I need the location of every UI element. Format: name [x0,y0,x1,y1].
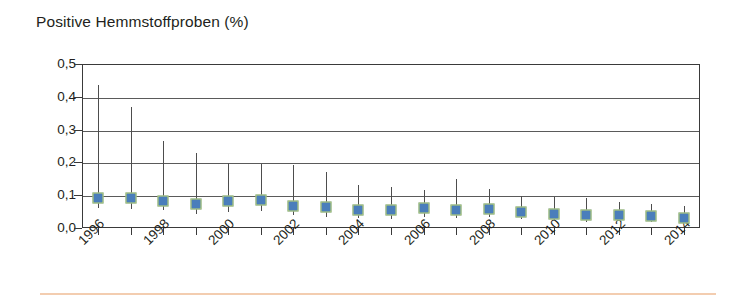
chart-figure: Positive Hemmstoffproben (%) 0,00,10,20,… [0,0,731,303]
x-tick-mark [326,228,327,235]
x-tick-label: 1996 [76,217,107,248]
data-point-marker [581,209,592,220]
data-point-marker [125,193,136,204]
y-tick-mark [74,97,82,98]
data-point-marker [646,211,657,222]
y-tick-mark [74,162,82,163]
x-tick-mark [456,228,457,235]
x-tick-mark [131,228,132,235]
data-point-marker [451,204,462,215]
data-point-marker [223,196,234,207]
x-tick-mark [261,228,262,235]
data-point-marker [548,209,559,220]
y-tick-mark [74,195,82,196]
error-bar [98,85,99,207]
data-point-marker [483,203,494,214]
data-point-marker [255,195,266,206]
data-point-marker [516,206,527,217]
y-tick-mark [74,64,82,65]
data-point-marker [353,204,364,215]
data-point-marker [678,212,689,223]
y-tick-mark [74,228,82,229]
data-point-marker [93,193,104,204]
footer-rule [40,293,716,295]
gridline [83,131,699,132]
x-tick-mark [586,228,587,235]
data-point-marker [158,196,169,207]
x-tick-mark [391,228,392,235]
gridline [83,98,699,99]
data-point-marker [418,203,429,214]
y-axis: 0,00,10,20,30,40,5 [26,0,76,303]
x-tick-mark [521,228,522,235]
x-tick-mark [651,228,652,235]
data-point-marker [288,200,299,211]
gridline [83,163,699,164]
x-tick-mark [196,228,197,235]
data-point-marker [190,199,201,210]
data-point-marker [320,202,331,213]
y-tick-mark [74,130,82,131]
data-point-marker [613,210,624,221]
data-point-marker [386,205,397,216]
